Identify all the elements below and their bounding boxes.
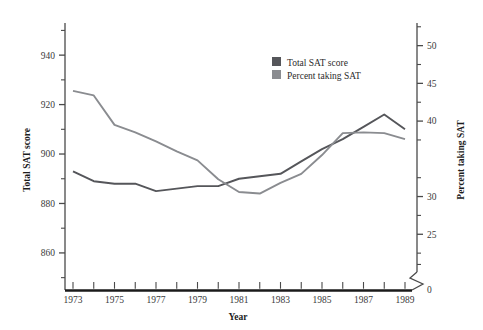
x-axis-tick-label: 1987 xyxy=(354,295,373,305)
right-axis-tick-label: 25 xyxy=(427,230,437,240)
left-axis-tick-label: 900 xyxy=(41,149,56,159)
left-axis-tick-label: 920 xyxy=(41,100,56,110)
left-axis-tick-label: 860 xyxy=(41,248,56,258)
x-axis-tick-label: 1989 xyxy=(396,295,415,305)
legend-swatch-total-sat-score xyxy=(272,57,281,66)
chart-canvas: 860880900920940 50454030250 197319751977… xyxy=(0,0,483,330)
x-axis-tick-label: 1977 xyxy=(147,295,166,305)
left-axis-title: Total SAT score xyxy=(22,128,32,192)
right-axis-tick-label: 45 xyxy=(427,79,437,89)
left-axis-tick-label: 940 xyxy=(41,51,56,61)
x-axis-tick-label: 1975 xyxy=(105,295,124,305)
x-axis-tick-label: 1983 xyxy=(271,295,290,305)
legend-label-total-sat-score: Total SAT score xyxy=(287,58,348,68)
x-axis-tick-label: 1979 xyxy=(188,295,207,305)
x-axis-tick-label: 1973 xyxy=(64,295,83,305)
legend-label-percent-taking-sat: Percent taking SAT xyxy=(287,71,361,81)
legend-swatch-percent-taking-sat xyxy=(272,70,281,79)
x-axis-tick-labels: 197319751977197919811983198519871989 xyxy=(64,295,415,305)
sat-chart-figure: 860880900920940 50454030250 197319751977… xyxy=(0,0,483,330)
right-axis-tick-label: 0 xyxy=(427,285,432,295)
right-axis-title: Percent taking SAT xyxy=(456,120,466,200)
right-axis-tick-label: 30 xyxy=(427,192,437,202)
x-axis-title: Year xyxy=(229,312,249,322)
chart-background xyxy=(0,0,483,330)
x-axis-tick-label: 1985 xyxy=(313,295,332,305)
left-axis-tick-label: 880 xyxy=(41,199,56,209)
right-axis-tick-label: 50 xyxy=(427,41,437,51)
x-axis-tick-label: 1981 xyxy=(230,295,249,305)
right-axis-tick-label: 40 xyxy=(427,116,437,126)
